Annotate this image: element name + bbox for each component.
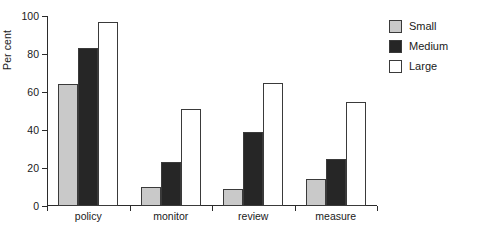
bar-review-medium	[243, 132, 263, 206]
legend-item-large: Large	[389, 60, 448, 73]
y-tick	[42, 130, 47, 131]
y-tick-label: 60	[27, 87, 39, 98]
legend-swatch-medium	[389, 40, 402, 53]
x-tick	[212, 206, 213, 211]
plot-area: 020406080100 policymonitorreviewmeasure	[47, 16, 377, 206]
y-axis-line	[47, 16, 48, 206]
legend: SmallMediumLarge	[389, 20, 448, 73]
bar-review-small	[223, 189, 243, 206]
y-tick	[42, 54, 47, 55]
legend-item-small: Small	[389, 20, 448, 33]
y-axis-title: Per cent	[2, 10, 13, 90]
y-tick	[42, 168, 47, 169]
y-tick-label: 80	[27, 49, 39, 60]
y-tick-label: 100	[21, 11, 39, 22]
legend-swatch-large	[389, 60, 402, 73]
bar-review-large	[263, 83, 283, 207]
legend-item-medium: Medium	[389, 40, 448, 53]
y-tick	[42, 16, 47, 17]
legend-label: Medium	[409, 41, 448, 52]
x-tick-label-policy: policy	[75, 211, 102, 222]
bar-monitor-medium	[161, 162, 181, 206]
x-tick	[377, 206, 378, 211]
bar-monitor-large	[181, 109, 201, 206]
bar-measure-small	[306, 179, 326, 206]
legend-label: Large	[409, 61, 437, 72]
y-tick-label: 0	[33, 201, 39, 212]
x-tick-label-review: review	[238, 211, 268, 222]
y-tick	[42, 92, 47, 93]
x-tick	[130, 206, 131, 211]
bar-monitor-small	[141, 187, 161, 206]
x-tick	[47, 206, 48, 211]
bar-policy-large	[98, 22, 118, 206]
legend-swatch-small	[389, 20, 402, 33]
bar-policy-medium	[78, 48, 98, 206]
legend-label: Small	[409, 21, 437, 32]
y-tick-label: 20	[27, 163, 39, 174]
x-tick-label-monitor: monitor	[153, 211, 188, 222]
bar-chart: Per cent 020406080100 policymonitorrevie…	[0, 0, 488, 240]
y-tick-label: 40	[27, 125, 39, 136]
bar-measure-large	[346, 102, 366, 207]
bar-measure-medium	[326, 159, 346, 207]
bar-policy-small	[58, 84, 78, 206]
x-tick-label-measure: measure	[315, 211, 356, 222]
x-tick	[295, 206, 296, 211]
